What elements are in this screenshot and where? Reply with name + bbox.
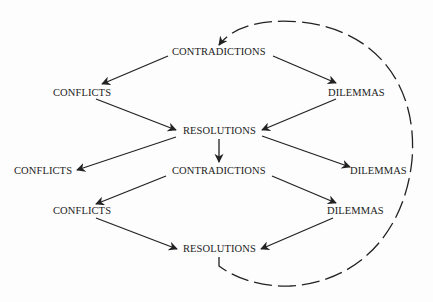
edge-conflicts-to-resolutions bbox=[96, 99, 176, 130]
node-contradictions-2: CONTRADICTIONS bbox=[172, 165, 266, 177]
edge-conflicts-3-to-resolutions-2 bbox=[96, 218, 177, 249]
node-contradictions-top: CONTRADICTIONS bbox=[172, 46, 266, 58]
node-resolutions-2: RESOLUTIONS bbox=[183, 243, 256, 255]
node-dilemmas-1: DILEMMAS bbox=[328, 87, 385, 99]
node-dilemmas-3: DILEMMAS bbox=[327, 205, 384, 217]
edge-dilemmas-3-to-resolutions-2 bbox=[261, 218, 333, 249]
node-dilemmas-2: DILEMMAS bbox=[350, 165, 407, 177]
edge-contradictions-2-to-dilemmas-3 bbox=[272, 176, 336, 203]
edge-dilemmas-to-resolutions bbox=[262, 99, 336, 130]
diagram-canvas: CONTRADICTIONS CONFLICTS DILEMMAS RESOLU… bbox=[0, 0, 433, 302]
edge-resolutions-to-dilemmas-2 bbox=[262, 136, 350, 167]
node-conflicts-2: CONFLICTS bbox=[14, 165, 72, 177]
node-conflicts-1: CONFLICTS bbox=[53, 87, 111, 99]
edge-contradictions-2-to-conflicts-3 bbox=[96, 176, 166, 204]
edge-contradictions-to-dilemmas bbox=[273, 56, 336, 83]
edge-resolutions-to-conflicts-2 bbox=[77, 137, 176, 170]
node-conflicts-3: CONFLICTS bbox=[53, 205, 111, 217]
edge-contradictions-to-conflicts bbox=[102, 56, 168, 84]
node-resolutions-1: RESOLUTIONS bbox=[183, 125, 256, 137]
